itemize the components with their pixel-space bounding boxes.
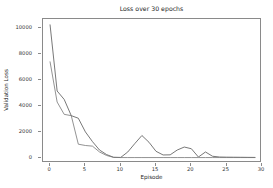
y-axis-tick-label: 2000	[19, 128, 32, 134]
y-axis-tick-label: 6000	[19, 76, 32, 82]
x-axis-tick-label: 15	[152, 166, 159, 172]
x-axis-label: Episode	[42, 174, 261, 180]
plot-lines	[43, 19, 262, 163]
plot-area	[42, 18, 261, 162]
y-axis-tick-label: 8000	[19, 50, 32, 56]
y-axis-tick-label: 0	[29, 154, 32, 160]
x-axis-tick-mark	[155, 163, 156, 166]
x-axis-tick-mark	[261, 163, 262, 166]
y-axis-tick-mark	[38, 53, 41, 54]
y-axis-tick-mark	[38, 131, 41, 132]
x-axis-tick-mark	[49, 163, 50, 166]
x-axis-tick-label: 10	[116, 166, 123, 172]
x-axis-tick-mark	[84, 163, 85, 166]
x-axis-tick-mark	[226, 163, 227, 166]
y-axis-tick-label: 4000	[19, 102, 32, 108]
x-axis-tick-label: 5	[83, 166, 86, 172]
x-axis-tick-mark	[120, 163, 121, 166]
y-axis-tick-mark	[38, 157, 41, 158]
series-line-train-loss	[50, 25, 255, 158]
y-axis-tick-mark	[38, 27, 41, 28]
x-axis-tick-label: 25	[222, 166, 229, 172]
series-line-validation-loss	[50, 62, 255, 158]
chart-title: Loss over 30 epochs	[42, 5, 261, 12]
x-axis-tick-label: 20	[187, 166, 194, 172]
y-axis-tick-mark	[38, 105, 41, 106]
x-axis-tick-label: 0	[47, 166, 50, 172]
y-axis-tick-labels: 0200040006000800010000	[0, 18, 38, 162]
x-axis-tick-mark	[190, 163, 191, 166]
x-axis-tick-label: 30	[258, 166, 265, 172]
y-axis-tick-mark	[38, 79, 41, 80]
y-axis-tick-label: 10000	[15, 24, 32, 30]
chart-figure: Loss over 30 epochs Validation Loss 0200…	[0, 0, 273, 188]
